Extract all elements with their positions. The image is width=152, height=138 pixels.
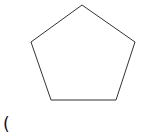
pentagon-shape	[31, 5, 135, 100]
option-label: (	[3, 114, 10, 134]
diagram-canvas	[0, 0, 152, 138]
